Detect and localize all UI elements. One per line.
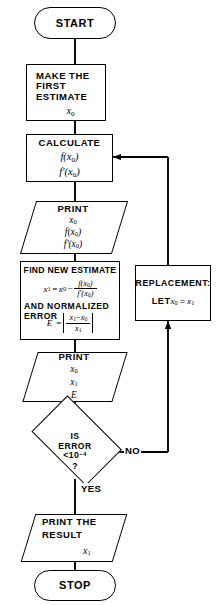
flowchart-canvas: START MAKE THE FIRST ESTIMATE x0 CALCULA… [0, 0, 218, 605]
calculate-expr-fprimex0: f'(x0) [59, 166, 79, 179]
calculate-title: CALCULATE [39, 138, 101, 149]
find-estimate-abs-bars: x1−x0 x1 [63, 313, 93, 333]
print-first-title: PRINT [58, 204, 89, 215]
make-estimate-line-3: ESTIMATE [36, 92, 87, 103]
make-estimate-variable: x0 [66, 105, 74, 118]
replacement-line-2: LET x0 = x1 [152, 296, 195, 306]
replacement-line-1: REPLACEMENT: [136, 279, 211, 289]
print-result-line-1: PRINT THE [42, 517, 97, 528]
find-estimate-fraction: f(x0) f'(x0) [74, 279, 96, 299]
print-second-x1: x1 [70, 377, 77, 388]
print-first-fprimex0: f'(x0) [64, 239, 82, 250]
node-decision-error-check[interactable]: IS ERROR <10−4 ? [22, 417, 128, 487]
calculate-expr-fx0: f(x0) [60, 151, 78, 164]
node-print-result[interactable]: PRINT THE RESULT x1 [28, 514, 118, 560]
stop-label: STOP [59, 579, 91, 591]
node-print-second[interactable]: PRINT x0 x1 E [30, 352, 118, 400]
node-stop[interactable]: STOP [34, 570, 116, 601]
edge-label-no: NO [124, 445, 141, 456]
node-make-first-estimate[interactable]: MAKE THE FIRST ESTIMATE x0 [26, 64, 106, 121]
print-second-E: E [71, 390, 77, 401]
node-calculate[interactable]: CALCULATE f(x0) f'(x0) [26, 134, 113, 182]
print-result-line-2: RESULT [42, 530, 82, 541]
print-second-x0: x0 [70, 364, 77, 375]
start-label: START [56, 17, 94, 29]
node-replacement[interactable]: REPLACEMENT: LET x0 = x1 [135, 265, 211, 321]
decision-line-3: <10−4 [63, 451, 87, 461]
edge-label-yes: YES [80, 483, 102, 494]
find-estimate-error-equation: E = x1−x0 x1 [47, 313, 94, 333]
find-estimate-equation: x1 = x0 − f(x0) f'(x0) [43, 279, 96, 299]
print-first-fx0: f(x0) [65, 227, 81, 238]
print-result-x1: x1 [83, 545, 91, 557]
node-start[interactable]: START [34, 7, 116, 39]
find-estimate-title: FIND NEW ESTIMATE [24, 266, 117, 276]
node-find-new-estimate[interactable]: FIND NEW ESTIMATE x1 = x0 − f(x0) f'(x0)… [20, 261, 120, 340]
node-print-first[interactable]: PRINT x0 f(x0) f'(x0) [28, 201, 118, 252]
print-first-x0: x0 [69, 215, 76, 226]
print-second-title: PRINT [59, 352, 90, 363]
decision-line-4: ? [72, 462, 78, 471]
